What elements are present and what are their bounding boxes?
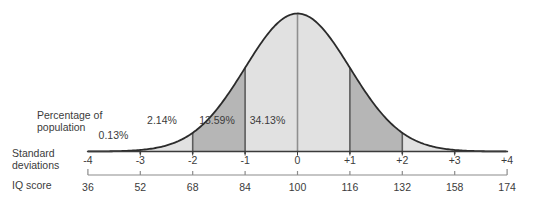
- sd-tick-label: 0: [295, 154, 301, 166]
- iq-axis-title: IQ score: [12, 179, 52, 191]
- percentage-annotation: 2.14%: [147, 114, 177, 126]
- sd-tick-label: +4: [501, 154, 513, 166]
- iq-tick-label: 174: [498, 181, 516, 193]
- sd-axis-title-line1: Standard: [12, 147, 59, 159]
- sd-tick-label: -2: [188, 154, 197, 166]
- iq-tick-label: 100: [289, 181, 307, 193]
- sd-tick-label: -1: [240, 154, 249, 166]
- percentage-of-population-line1: Percentage of: [37, 109, 102, 121]
- percentage-annotation: 13.59%: [199, 114, 235, 126]
- sd-axis-title-line2: deviations: [12, 159, 59, 171]
- iq-distribution-figure: -4-3-2-10+1+2+3+436526884100116132158174…: [0, 0, 540, 205]
- iq-tick-label: 116: [342, 181, 359, 193]
- sd-tick-label: +1: [344, 154, 356, 166]
- iq-tick-label: 68: [187, 181, 199, 193]
- sd-tick-label: -4: [83, 154, 92, 166]
- sd-tick-label: +3: [449, 154, 461, 166]
- iq-tick-label: 36: [82, 181, 94, 193]
- sd-tick-label: +2: [396, 154, 408, 166]
- iq-tick-label: 52: [134, 181, 146, 193]
- percentage-annotation: 34.13%: [250, 114, 286, 126]
- iq-tick-label: 132: [394, 181, 412, 193]
- sd-tick-label: -3: [136, 154, 145, 166]
- percentage-of-population-line2: population: [37, 121, 102, 133]
- percentage-of-population-label: Percentage of population: [37, 109, 102, 133]
- percentage-annotation: 0.13%: [99, 129, 129, 141]
- bell-curve-svg: -4-3-2-10+1+2+3+436526884100116132158174…: [0, 0, 540, 205]
- iq-tick-label: 158: [446, 181, 464, 193]
- iq-tick-label: 84: [239, 181, 251, 193]
- sd-axis-title: Standard deviations: [12, 147, 59, 171]
